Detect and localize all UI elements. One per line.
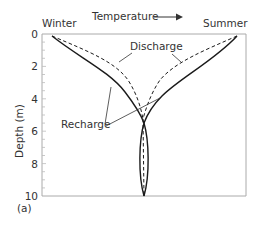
y-tick-8: 8 bbox=[31, 158, 38, 170]
summer-label: Summer bbox=[203, 17, 248, 29]
y-tick-6: 6 bbox=[31, 125, 38, 137]
y-axis-title: Depth (m) bbox=[13, 104, 25, 158]
temperature-label: Temperature bbox=[91, 10, 159, 22]
y-tick-0: 0 bbox=[31, 28, 38, 40]
winter-label: Winter bbox=[42, 17, 77, 29]
recharge-curves bbox=[52, 36, 237, 196]
y-axis-tick-labels: 0 2 4 6 8 10 bbox=[25, 28, 39, 202]
discharge-label: Discharge bbox=[130, 40, 183, 52]
recharge-leaders bbox=[105, 87, 160, 126]
discharge-center-line bbox=[143, 119, 144, 196]
temperature-depth-diagram: Winter Temperature Summer 0 2 4 6 8 10 D… bbox=[0, 0, 260, 229]
discharge-leaders bbox=[119, 53, 181, 62]
panel-label: (a) bbox=[17, 202, 32, 214]
y-tick-4: 4 bbox=[31, 93, 38, 105]
y-tick-2: 2 bbox=[31, 60, 38, 72]
recharge-label: Recharge bbox=[61, 118, 110, 130]
recharge-lens-right bbox=[144, 123, 148, 196]
y-axis-ticks bbox=[42, 42, 46, 188]
y-tick-10: 10 bbox=[25, 190, 38, 202]
